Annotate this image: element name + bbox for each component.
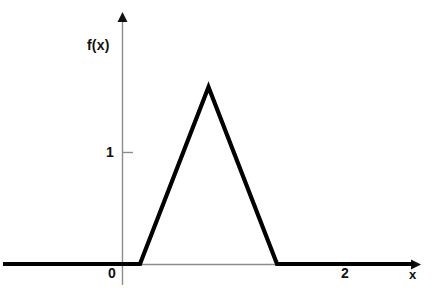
y-axis-label: f(x) — [87, 38, 110, 52]
x-tick-label-0: 0 — [108, 266, 116, 280]
x-axis-label: x — [409, 268, 416, 281]
x-tick-label-2: 2 — [341, 266, 349, 280]
figure-canvas: f(x) x 1 0 2 — [0, 0, 433, 300]
y-tick-label-1: 1 — [106, 145, 114, 159]
y-axis-arrowhead — [118, 12, 128, 22]
function-plot — [0, 0, 433, 300]
function-curve — [3, 87, 414, 264]
